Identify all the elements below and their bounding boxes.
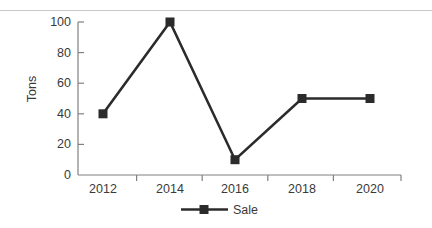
- y-tick-label-40: 40: [41, 108, 71, 121]
- data-point-2020: [366, 94, 375, 103]
- data-point-2014: [166, 18, 175, 27]
- series-markers-sale: [99, 18, 375, 165]
- x-tick-label-2016: 2016: [205, 183, 265, 196]
- y-axis-title: Tons: [22, 60, 42, 130]
- y-tick-label-60: 60: [41, 77, 71, 90]
- series-line-sale: [103, 22, 370, 160]
- x-tick-label-2014: 2014: [140, 183, 200, 196]
- data-point-2012: [99, 109, 108, 118]
- y-tick-label-0: 0: [41, 169, 71, 182]
- data-point-2016: [231, 155, 240, 164]
- y-tick-label-100: 100: [41, 16, 71, 29]
- chart-page: Tons 100 80 60 40 20 0 2012 2014 2016 20…: [0, 0, 432, 228]
- y-tick-label-80: 80: [41, 47, 71, 60]
- x-tick-label-2012: 2012: [73, 183, 133, 196]
- legend-label-sale[interactable]: Sale: [233, 204, 258, 217]
- y-tick-label-20: 20: [41, 138, 71, 151]
- x-axis-ticks: [137, 175, 401, 181]
- x-tick-label-2020: 2020: [340, 183, 400, 196]
- y-axis-title-text: Tons: [25, 63, 39, 115]
- x-tick-label-2018: 2018: [272, 183, 332, 196]
- data-point-2018: [298, 94, 307, 103]
- legend-swatch-sale: [181, 205, 228, 214]
- y-axis-ticks: [78, 22, 84, 144]
